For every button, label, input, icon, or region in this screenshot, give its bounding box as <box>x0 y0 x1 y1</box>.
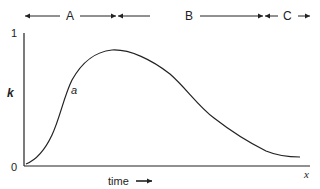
y-axis-label: k <box>7 87 14 99</box>
x-axis-end-label: x <box>304 168 309 180</box>
phase-c-label: C <box>283 10 292 22</box>
y-tick-1: 1 <box>11 27 17 39</box>
phase-a-label: A <box>66 10 74 22</box>
phase-b-label: B <box>185 10 193 22</box>
x-axis-label: time <box>108 175 129 187</box>
curve-a <box>26 50 300 164</box>
kinetics-diagram <box>0 0 320 189</box>
curve-label-a: a <box>71 84 77 96</box>
y-tick-0: 0 <box>11 161 17 173</box>
